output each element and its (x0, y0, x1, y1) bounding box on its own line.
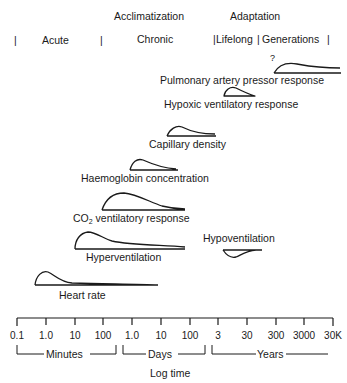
tick-label: 3 (215, 330, 221, 341)
tick-label: 1.0 (125, 330, 139, 341)
axis-title: Log time (150, 367, 190, 379)
group-years: Years (257, 348, 283, 360)
label-heart-rate: Heart rate (59, 289, 106, 301)
label-haemoglobin: Haemoglobin concentration (81, 172, 209, 184)
pulmonary-curve (274, 63, 341, 73)
co2-curve (102, 193, 185, 210)
co2-suffix: ventilatory response (93, 212, 190, 224)
tick-label: 30 (241, 330, 252, 341)
tick-label: 30K (324, 330, 342, 341)
time-axis (17, 318, 333, 326)
label-capillary: Capillary density (149, 138, 226, 150)
hypoventilation-curve (223, 250, 262, 257)
group-days: Days (148, 348, 172, 360)
tick-label: 3000 (293, 330, 315, 341)
capillary-curve (167, 126, 216, 136)
label-hypoxic: Hypoxic ventilatory response (164, 98, 298, 110)
haemoglobin-curve (130, 159, 178, 170)
tick-label: 0.1 (10, 330, 24, 341)
label-co2: CO2 ventilatory response (73, 212, 190, 228)
label-hyperventilation: Hyperventilation (86, 251, 161, 263)
hyperventilation-curve (75, 232, 185, 249)
pulmonary-note: ? (270, 52, 275, 64)
tick-label: 1.0 (39, 330, 53, 341)
group-minutes: Minutes (46, 348, 83, 360)
heart-rate-curve (35, 272, 158, 285)
response-curves (0, 0, 347, 383)
tick-label: 100 (182, 330, 199, 341)
tick-label: 10 (155, 330, 166, 341)
label-pulmonary: Pulmonary artery pressor response (160, 74, 324, 86)
hypoxic-curve (224, 87, 255, 96)
tick-label: 10 (69, 330, 80, 341)
tick-label: 100 (95, 330, 112, 341)
co2-prefix: CO (73, 212, 89, 224)
tick-label: 300 (268, 330, 285, 341)
label-hypoventilation: Hypoventilation (203, 232, 275, 244)
